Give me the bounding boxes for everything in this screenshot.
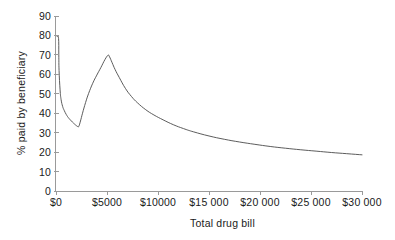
y-tick-mark (54, 16, 59, 17)
y-tick-label: 90 (39, 10, 51, 22)
x-tick-mark (260, 191, 261, 195)
y-tick: 10 (0, 166, 62, 178)
x-axis-title: Total drug bill (0, 217, 395, 229)
y-axis-title: % paid by beneficiary (15, 15, 27, 191)
y-tick-label: 80 (39, 29, 51, 41)
y-tick: 30 (0, 127, 62, 139)
y-tick-mark (54, 113, 59, 114)
y-tick-label: 50 (39, 88, 51, 100)
x-tick-label: $15 000 (189, 196, 228, 209)
x-tick-label: $20 000 (240, 196, 279, 209)
series-path (56, 35, 362, 154)
y-tick: 70 (0, 49, 62, 61)
y-tick-mark (54, 93, 59, 94)
y-tick-mark (54, 54, 59, 55)
y-tick-label: 20 (39, 146, 51, 158)
x-tick-label: $5000 (92, 196, 122, 209)
y-tick-label: 70 (39, 49, 51, 61)
y-tick-label: 30 (39, 127, 51, 139)
y-tick-label: 10 (39, 166, 51, 178)
y-tick: 40 (0, 107, 62, 119)
x-tick-mark (209, 191, 210, 195)
x-tick-mark (56, 191, 57, 195)
plot-area (56, 16, 362, 191)
y-tick: 90 (0, 10, 62, 22)
x-tick-mark (311, 191, 312, 195)
y-tick-mark (54, 35, 59, 36)
y-tick-mark (54, 74, 59, 75)
x-tick-label: $30 000 (342, 196, 381, 209)
y-tick: 60 (0, 68, 62, 80)
y-tick: 80 (0, 29, 62, 41)
x-tick-mark (107, 191, 108, 195)
data-series-line (56, 16, 362, 191)
chart-figure: 0102030405060708090 $0$5000$10000$15 000… (0, 0, 395, 240)
y-tick-mark (54, 132, 59, 133)
y-tick: 20 (0, 146, 62, 158)
y-tick: 50 (0, 88, 62, 100)
x-tick-label: $25 000 (291, 196, 330, 209)
y-tick-label: 60 (39, 68, 51, 80)
y-tick-mark (54, 171, 59, 172)
x-tick-mark (362, 191, 363, 195)
x-tick-label: $10000 (140, 196, 176, 209)
x-tick-mark (158, 191, 159, 195)
x-tick-label: $0 (50, 196, 62, 209)
y-tick-label: 40 (39, 107, 51, 119)
y-tick-mark (54, 152, 59, 153)
